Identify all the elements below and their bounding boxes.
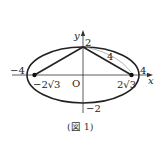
focus-right-point: [129, 73, 133, 77]
origin-label: O: [72, 78, 80, 89]
x-axis-label: x: [148, 75, 154, 86]
focus-left-label: −2√3: [33, 79, 60, 90]
focus-left-point: [32, 73, 36, 77]
segment-left: [35, 47, 84, 75]
segment-length-label: 4: [107, 51, 113, 62]
x-pos-vertex-label: 4: [140, 65, 146, 76]
y-pos-vertex-label: 2: [85, 37, 91, 48]
y-axis-arrow-icon: [81, 30, 85, 36]
figure-caption: (図 1): [67, 121, 93, 132]
focus-right-label: 2√3: [117, 79, 136, 90]
x-neg-vertex-label: −4: [10, 65, 25, 76]
y-neg-vertex-label: −2: [86, 103, 101, 114]
y-axis-label: y: [73, 30, 80, 41]
ellipse-figure: y x O 2 −2 −4 4 −2√3 2√3 4 (図 1): [0, 0, 165, 148]
